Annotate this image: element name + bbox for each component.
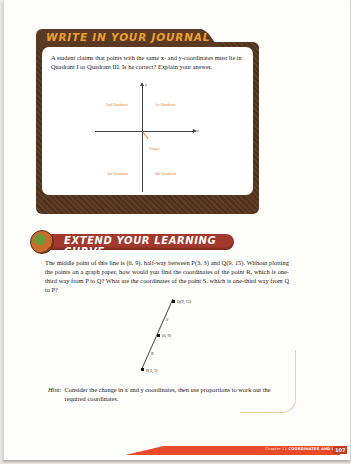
quadrant-4-label: 4th Quadrant	[155, 171, 176, 176]
point-p-label: P(3, 3)	[146, 368, 157, 373]
point-q	[172, 300, 175, 303]
page-number: 107	[333, 446, 347, 454]
point-p	[141, 368, 144, 371]
point-s-label: S	[166, 317, 168, 322]
journal-box: WRITE IN YOUR JOURNAL A student claims t…	[36, 29, 259, 117]
extend-title: EXTEND YOUR LEARNING CURVE	[64, 235, 234, 257]
y-axis-label: y	[145, 82, 147, 87]
hint-key: Hint:	[48, 386, 62, 393]
y-axis	[142, 84, 143, 192]
midpoint-label: (6, 9)	[162, 333, 171, 338]
x-axis-label: x	[197, 128, 199, 133]
decorative-corner-curve	[240, 350, 296, 413]
journal-title: WRITE IN YOUR JOURNAL	[46, 31, 210, 43]
point-midpoint	[157, 334, 160, 337]
x-axis	[95, 131, 195, 132]
journal-prompt: A student claims that points with the sa…	[51, 53, 251, 71]
chapter-label: Chapter 11	[265, 447, 287, 451]
y-axis-arrow-icon	[140, 82, 144, 86]
origin-label: Origin	[149, 146, 159, 151]
extend-prompt: The middle point of this line is (6, 9),…	[45, 258, 289, 294]
extend-header-bar: EXTEND YOUR LEARNING CURVE	[44, 234, 234, 250]
quadrant-1-label: 1st Quadrant	[155, 102, 176, 107]
quadrant-2-label: 2nd Quadrant	[106, 102, 128, 107]
point-q-label: Q(9, 15)	[177, 299, 191, 304]
journal-content: A student claims that points with the sa…	[42, 47, 253, 195]
learning-curve-icon	[30, 230, 54, 254]
quadrant-3-label: 3rd Quadrant	[107, 171, 128, 176]
point-r-label: R	[151, 351, 154, 356]
